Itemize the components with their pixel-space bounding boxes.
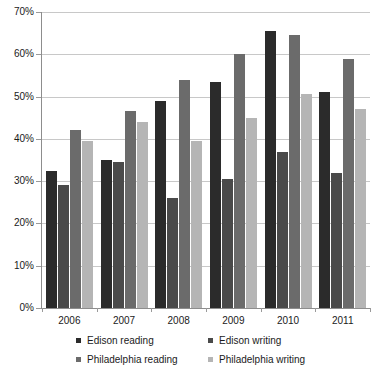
legend-swatch-icon bbox=[208, 338, 213, 343]
bar-2009-series-1 bbox=[222, 179, 233, 308]
legend-item-philadelphia-writing[interactable]: Philadelphia writing bbox=[186, 350, 372, 369]
bar-2007-series-1 bbox=[113, 162, 124, 308]
bar-2011-series-3 bbox=[355, 109, 366, 308]
x-axis-tick-2007: 2007 bbox=[97, 311, 152, 326]
x-axis-tick-mark bbox=[97, 308, 98, 312]
bar-2007-series-2 bbox=[125, 111, 136, 308]
legend-label: Edison reading bbox=[87, 335, 154, 346]
bar-2009-series-0 bbox=[210, 82, 221, 308]
x-axis-tick-label: 2008 bbox=[151, 311, 206, 326]
x-axis-tick-label: 2009 bbox=[206, 311, 261, 326]
legend-swatch-icon bbox=[76, 357, 81, 362]
bar-2010-series-2 bbox=[289, 35, 300, 308]
legend-item-edison-writing[interactable]: Edison writing bbox=[186, 331, 372, 350]
bar-2010-series-3 bbox=[301, 94, 312, 308]
bar-2011-series-1 bbox=[331, 173, 342, 308]
bar-2006-series-0 bbox=[46, 171, 57, 308]
bar-group-2009 bbox=[206, 0, 261, 308]
y-axis: 0%10%20%30%40%50%60%70% bbox=[0, 0, 40, 318]
bar-chart: 0%10%20%30%40%50%60%70% 2006200720082009… bbox=[0, 0, 372, 369]
bar-2010-series-1 bbox=[277, 152, 288, 308]
y-axis-tick-label: 70% bbox=[14, 7, 34, 17]
bar-2009-series-3 bbox=[246, 118, 257, 308]
legend-label: Philadelphia writing bbox=[219, 354, 305, 365]
y-axis-tick-label: 10% bbox=[14, 261, 34, 271]
legend-label: Edison writing bbox=[219, 335, 281, 346]
bar-2008-series-3 bbox=[191, 141, 202, 308]
bar-2008-series-1 bbox=[167, 198, 178, 308]
bar-2011-series-0 bbox=[319, 92, 330, 308]
x-axis-tick-2009: 2009 bbox=[206, 311, 261, 326]
x-axis: 200620072008200920102011 bbox=[42, 311, 370, 326]
bars-layer bbox=[42, 0, 370, 308]
x-axis-tick-label: 2006 bbox=[42, 311, 97, 326]
y-axis-tick-label: 40% bbox=[14, 134, 34, 144]
legend-item-edison-reading[interactable]: Edison reading bbox=[0, 331, 186, 350]
y-axis-tick-label: 20% bbox=[14, 218, 34, 228]
y-axis-tick-label: 0% bbox=[20, 303, 34, 313]
bar-2006-series-2 bbox=[70, 130, 81, 308]
bar-group-2010 bbox=[261, 0, 316, 308]
legend: Edison readingEdison writingPhiladelphia… bbox=[0, 331, 372, 369]
x-axis-tick-2010: 2010 bbox=[261, 311, 316, 326]
y-axis-tick-label: 30% bbox=[14, 176, 34, 186]
x-axis-tick-mark bbox=[151, 308, 152, 312]
bar-2006-series-1 bbox=[58, 185, 69, 308]
x-axis-tick-2011: 2011 bbox=[315, 311, 370, 326]
bar-2008-series-0 bbox=[155, 101, 166, 308]
x-axis-tick-mark bbox=[261, 308, 262, 312]
bar-group-2011 bbox=[315, 0, 370, 308]
x-axis-tick-mark bbox=[315, 308, 316, 312]
x-axis-tick-mark bbox=[206, 308, 207, 312]
bar-group-2008 bbox=[151, 0, 206, 308]
legend-swatch-icon bbox=[76, 338, 81, 343]
legend-label: Philadelphia reading bbox=[87, 354, 178, 365]
bar-group-2006 bbox=[42, 0, 97, 308]
bar-2007-series-0 bbox=[101, 160, 112, 308]
plot-area: 0%10%20%30%40%50%60%70% bbox=[0, 0, 372, 318]
legend-item-philadelphia-reading[interactable]: Philadelphia reading bbox=[0, 350, 186, 369]
bar-2009-series-2 bbox=[234, 54, 245, 308]
bar-2011-series-2 bbox=[343, 59, 354, 308]
x-axis-tick-2008: 2008 bbox=[151, 311, 206, 326]
x-axis-tick-mark bbox=[42, 308, 43, 312]
x-axis-tick-2006: 2006 bbox=[42, 311, 97, 326]
x-axis-tick-mark bbox=[370, 308, 371, 312]
bar-2008-series-2 bbox=[179, 80, 190, 308]
x-axis-tick-label: 2010 bbox=[261, 311, 316, 326]
bar-2007-series-3 bbox=[137, 122, 148, 308]
bar-2006-series-3 bbox=[82, 141, 93, 308]
bar-group-2007 bbox=[97, 0, 152, 308]
y-axis-tick-label: 60% bbox=[14, 49, 34, 59]
x-axis-tick-label: 2007 bbox=[97, 311, 152, 326]
x-axis-tick-label: 2011 bbox=[315, 311, 370, 326]
bar-2010-series-0 bbox=[265, 31, 276, 308]
legend-swatch-icon bbox=[208, 357, 213, 362]
y-axis-tick-label: 50% bbox=[14, 92, 34, 102]
